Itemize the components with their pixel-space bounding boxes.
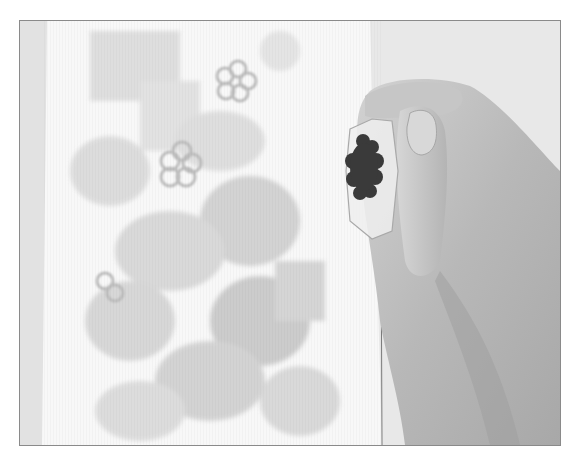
photo-illustration — [20, 21, 560, 445]
photo-frame — [19, 20, 561, 446]
